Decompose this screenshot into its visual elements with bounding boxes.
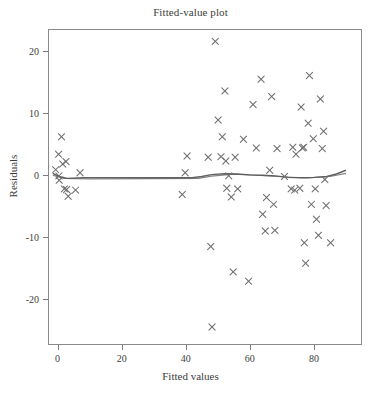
x-axis-title: Fitted values [0, 370, 381, 382]
x-tick-label: 60 [245, 353, 255, 364]
x-tick-mark [58, 345, 59, 350]
x-tick-label: 20 [117, 353, 127, 364]
y-tick-label: -20 [0, 293, 39, 304]
lowess-line [53, 170, 346, 179]
y-tick-mark [43, 113, 48, 114]
y-tick-mark [43, 51, 48, 52]
y-tick-mark [43, 299, 48, 300]
y-tick-label: 20 [0, 45, 39, 56]
x-tick-label: 40 [181, 353, 191, 364]
chart-title: Fitted-value plot [0, 6, 381, 18]
x-tick-mark [186, 345, 187, 350]
y-tick-mark [43, 175, 48, 176]
y-tick-label: 0 [0, 169, 39, 180]
y-tick-mark [43, 237, 48, 238]
x-tick-label: 80 [309, 353, 319, 364]
x-tick-mark [250, 345, 251, 350]
fitted-value-plot-figure: Fitted-value plot 20100-10-20 020406080 … [0, 0, 381, 393]
x-tick-label: 0 [55, 353, 60, 364]
scatter-markers [53, 38, 334, 330]
x-tick-mark [314, 345, 315, 350]
y-tick-label: 10 [0, 107, 39, 118]
plot-canvas [48, 29, 362, 345]
y-tick-label: -10 [0, 231, 39, 242]
x-tick-mark [122, 345, 123, 350]
y-axis-title: Residuals [7, 116, 19, 236]
